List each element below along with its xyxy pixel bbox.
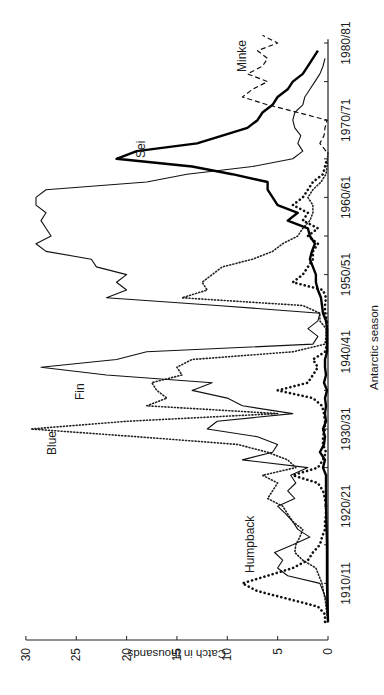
label-fin: Fin (73, 383, 87, 400)
series-fin-line (36, 58, 328, 622)
label-blue: Blue (45, 431, 59, 455)
series-sei-line (117, 51, 329, 622)
label-sei: Sei (134, 141, 148, 158)
season-tick-label: 1970/71 (339, 98, 353, 142)
label-minke: Minke (235, 40, 249, 72)
catch-tick-label: 25 (69, 648, 83, 662)
y-axis-title: Catch in thousands (127, 648, 226, 660)
whale-catch-chart: 0510152025301910/111920/211930/311940/41… (0, 0, 384, 695)
season-tick-label: 1940/41 (339, 330, 353, 374)
season-tick-label: 1910/11 (339, 562, 353, 605)
catch-tick-label: 5 (271, 648, 285, 655)
season-tick-label: 1950/51 (339, 253, 353, 297)
series-labels: Blue Fin Humpback Sei Minke Catch in tho… (45, 40, 380, 660)
season-tick-label: 1960/61 (339, 175, 353, 219)
season-tick-label: 1980/81 (339, 21, 353, 65)
x-axis-title: Antarctic season (368, 305, 380, 390)
season-tick-label: 1930/31 (339, 407, 353, 451)
catch-tick-label: 0 (321, 648, 335, 655)
label-humpback: Humpback (243, 515, 257, 573)
series-minke-line (242, 35, 327, 151)
axes: 0510152025301910/111920/211930/311940/41… (19, 21, 353, 661)
season-tick-label: 1920/21 (339, 484, 353, 528)
series-lines (31, 35, 328, 622)
catch-tick-label: 30 (19, 648, 33, 662)
